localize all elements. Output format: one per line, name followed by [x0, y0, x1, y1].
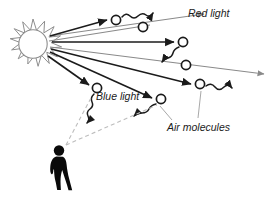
leader-line-to-molecule-right [198, 91, 201, 118]
ray-dark-to-m5 [51, 49, 191, 84]
figure-caption-cropped [0, 193, 272, 203]
ray-gray-upper-short [49, 25, 150, 41]
sightline-to-blue-molecule-right [66, 105, 157, 145]
label-air-molecules: Air molecules [167, 122, 230, 133]
person-head [54, 145, 64, 155]
scattered-wave-group [87, 13, 232, 123]
air-molecule [156, 94, 165, 103]
air-molecule [111, 15, 120, 24]
air-molecule [195, 79, 204, 88]
air-molecule [138, 22, 147, 31]
transmitted-ray-group [49, 14, 264, 74]
incoming-ray-group [48, 20, 191, 98]
squiggle-red-out-top [122, 13, 153, 18]
air-molecule [181, 60, 190, 69]
observer-person-icon [50, 145, 72, 190]
ray-gray-mid [50, 47, 264, 74]
air-molecule [178, 37, 187, 46]
person-body [50, 157, 72, 191]
label-blue-light: Blue light [96, 91, 139, 102]
figure-canvas: Red light Blue light Air molecules [0, 0, 272, 203]
ray-gray-red-light [50, 14, 204, 36]
leader-line-to-molecule-left [160, 106, 172, 120]
squiggle-red-out-right [206, 84, 232, 89]
squiggle-from-m3-down [162, 47, 179, 62]
air-molecules-leader-group [160, 91, 201, 120]
sun-core [19, 30, 47, 58]
label-red-light: Red light [188, 8, 229, 19]
observer-sightline-group [66, 96, 157, 145]
